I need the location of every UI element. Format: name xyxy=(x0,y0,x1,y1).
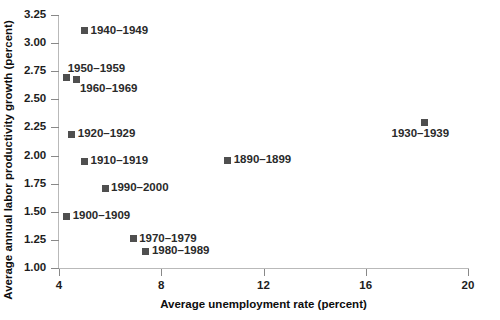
y-tick-mark xyxy=(51,15,59,16)
x-tick-label: 16 xyxy=(346,279,386,291)
y-tick-mark xyxy=(51,71,59,72)
data-point-label: 1970–1979 xyxy=(139,232,197,244)
y-tick-mark xyxy=(51,99,59,100)
x-axis-title: Average unemployment rate (percent) xyxy=(59,298,468,310)
x-tick-label: 20 xyxy=(448,279,488,291)
data-point-label: 1930–1939 xyxy=(392,127,450,139)
x-tick-mark xyxy=(468,269,469,276)
data-point-label: 1900–1909 xyxy=(73,209,131,221)
data-point-marker[interactable] xyxy=(81,158,88,165)
x-tick-mark xyxy=(264,269,265,276)
y-tick-mark xyxy=(51,43,59,44)
data-point-marker[interactable] xyxy=(421,119,428,126)
data-point-label: 1950–1959 xyxy=(68,62,126,74)
data-point-marker[interactable] xyxy=(224,157,231,164)
data-point-label: 1990–2000 xyxy=(111,181,169,193)
x-tick-mark xyxy=(161,269,162,276)
data-point-label: 1980–1989 xyxy=(152,244,210,256)
data-point-label: 1960–1969 xyxy=(80,82,138,94)
data-point-label: 1890–1899 xyxy=(234,153,292,165)
y-tick-mark xyxy=(51,240,59,241)
y-tick-mark xyxy=(51,212,59,213)
x-tick-mark xyxy=(59,269,60,276)
plot-area xyxy=(59,15,468,268)
data-point-marker[interactable] xyxy=(63,74,70,81)
y-tick-mark xyxy=(51,268,59,269)
data-point-marker[interactable] xyxy=(63,213,70,220)
data-point-marker[interactable] xyxy=(68,131,75,138)
scatter-chart: 1.001.251.501.752.002.252.502.753.003.25… xyxy=(0,0,500,320)
data-point-marker[interactable] xyxy=(130,235,137,242)
data-point-label: 1920–1929 xyxy=(78,127,136,139)
y-tick-mark xyxy=(51,184,59,185)
data-point-label: 1940–1949 xyxy=(91,24,149,36)
y-tick-mark xyxy=(51,127,59,128)
data-point-marker[interactable] xyxy=(81,27,88,34)
x-tick-label: 4 xyxy=(39,279,79,291)
data-point-marker[interactable] xyxy=(102,185,109,192)
x-tick-label: 8 xyxy=(141,279,181,291)
data-point-label: 1910–1919 xyxy=(91,154,149,166)
x-tick-label: 12 xyxy=(244,279,284,291)
x-tick-mark xyxy=(366,269,367,276)
data-point-marker[interactable] xyxy=(142,248,149,255)
y-tick-mark xyxy=(51,156,59,157)
y-axis-title: Average annual labor productivity growth… xyxy=(2,0,18,320)
